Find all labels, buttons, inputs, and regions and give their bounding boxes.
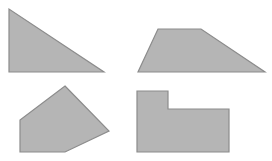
right-triangle-shape	[9, 9, 104, 72]
pentagon-shape	[20, 86, 109, 152]
shapes-diagram	[0, 0, 272, 161]
l-shape	[137, 91, 229, 152]
trapezoid-shape	[138, 29, 265, 72]
